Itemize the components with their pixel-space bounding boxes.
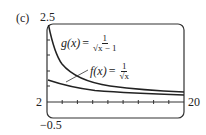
g-label: g(x) = 1 √x − 1 <box>61 34 117 53</box>
f-label: f(x) = 1 √x <box>90 62 129 81</box>
